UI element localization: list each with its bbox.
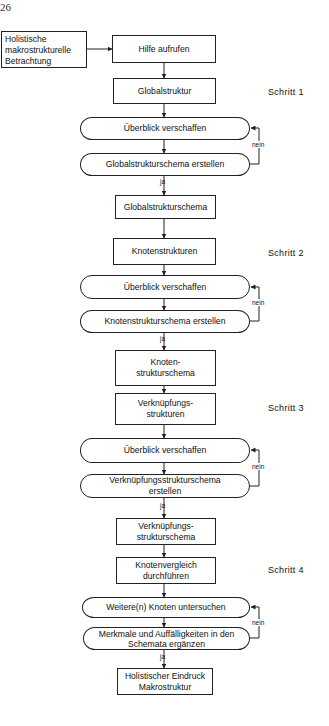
node-merkmale-ergaenzen: Merkmale und Auffälligkeiten in den Sche…: [83, 627, 250, 650]
label-ja-3: ja: [160, 502, 165, 509]
node-globalstrukturschema-erstellen: Globalstrukturschema erstellen: [80, 153, 250, 176]
node-holistischer-eindruck: Holistischer Eindruck Makrostruktur: [117, 668, 213, 695]
label-ja-4: ja: [160, 653, 165, 660]
node-knotenvergleich: Knotenvergleich durchführen: [116, 557, 216, 584]
step-label-4: Schritt 4: [268, 565, 304, 575]
node-ueberblick-2: Überblick verschaffen: [80, 275, 250, 299]
start-node: Holistische makrostrukturelle Betrachtun…: [1, 31, 87, 68]
node-knotenstrukturschema-erstellen: Knotenstrukturschema erstellen: [80, 310, 250, 333]
node-knotenstrukturen: Knotenstrukturen: [113, 238, 216, 265]
node-ueberblick-1: Überblick verschaffen: [80, 117, 250, 140]
label-ja-2: ja: [160, 335, 165, 342]
node-verknuepfungsstrukturen: Verknüpfungs- strukturen: [115, 393, 216, 425]
node-verknuepfungsstrukturschema-erstellen: Verknüpfungsstrukturschema erstellen: [80, 474, 250, 498]
node-knotenstrukturschema: Knoten- strukturschema: [115, 350, 216, 386]
step-label-2: Schritt 2: [268, 248, 304, 258]
step-label-1: Schritt 1: [268, 87, 304, 97]
label-nein-2: nein: [252, 299, 264, 306]
node-weitere-knoten: Weitere(n) Knoten untersuchen: [82, 597, 250, 618]
node-ueberblick-3: Überblick verschaffen: [80, 438, 250, 463]
node-hilfe-aufrufen: Hilfe aufrufen: [112, 35, 216, 63]
node-globalstrukturschema: Globalstrukturschema: [115, 195, 216, 219]
node-globalstruktur: Globalstruktur: [113, 78, 216, 104]
step-label-3: Schritt 3: [268, 403, 304, 413]
node-verknuepfungsstrukturschema: Verknüpfungs- strukturschema: [116, 518, 216, 545]
label-ja-1: ja: [160, 178, 165, 185]
label-nein-1: nein: [252, 141, 264, 148]
label-nein-3: nein: [252, 463, 264, 470]
label-nein-4: nein: [252, 619, 264, 626]
